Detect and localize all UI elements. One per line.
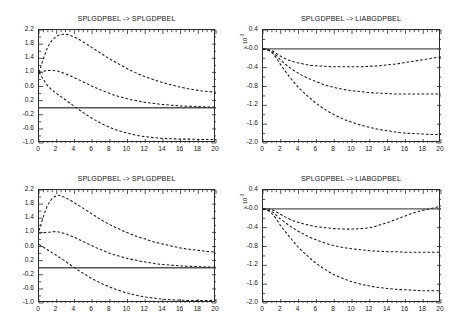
xtick-label-top-left-0: 0 bbox=[28, 145, 48, 152]
ytick-label-top-left-8: 2.2 bbox=[8, 25, 34, 32]
xtick-label-bottom-left-1: 2 bbox=[46, 305, 66, 312]
xtick-label-bottom-left-4: 8 bbox=[99, 305, 119, 312]
xtick-label-top-right-1: 2 bbox=[270, 145, 290, 152]
series-line-1 bbox=[39, 232, 216, 267]
ytick-label-bottom-right-0: -2.0 bbox=[232, 298, 258, 305]
xtick-label-top-left-6: 12 bbox=[134, 145, 154, 152]
ytick-label-bottom-right-3: -0.8 bbox=[232, 242, 258, 249]
xtick-label-top-left-9: 18 bbox=[187, 145, 207, 152]
ytick-label-bottom-right-2: -1.2 bbox=[232, 260, 258, 267]
xtick-label-top-left-4: 8 bbox=[99, 145, 119, 152]
series-line-0 bbox=[263, 49, 441, 67]
plot-svg-top-right bbox=[263, 30, 441, 143]
xtick-label-top-left-7: 14 bbox=[152, 145, 172, 152]
plot-area-top-right bbox=[262, 29, 440, 142]
xtick-label-bottom-right-9: 18 bbox=[412, 305, 432, 312]
exponent-label-top-right: x 10-3 bbox=[240, 34, 248, 49]
series-line-2 bbox=[263, 49, 441, 135]
ytick-label-bottom-right-6: 0.4 bbox=[232, 185, 258, 192]
ytick-label-bottom-left-4: 0.6 bbox=[8, 242, 34, 249]
xtick-label-top-right-2: 4 bbox=[288, 145, 308, 152]
panel-title-bottom-left: SPLGDPBEL -> SPLGDPBEL bbox=[2, 174, 251, 183]
ytick-label-top-left-4: 0.6 bbox=[8, 82, 34, 89]
xtick-label-bottom-right-10: 20 bbox=[430, 305, 450, 312]
panel-bottom-left: SPLGDPBEL -> SPLGDPBEL-1.0-0.6-0.20.20.6… bbox=[0, 0, 464, 321]
ytick-label-bottom-left-5: 1.0 bbox=[8, 227, 34, 234]
plot-area-bottom-right bbox=[262, 189, 440, 302]
ytick-label-bottom-left-8: 2.2 bbox=[8, 185, 34, 192]
ytick-label-bottom-right-1: -1.6 bbox=[232, 279, 258, 286]
panel-title-top-right: SPLGDPBEL -> LIABGDPBEL bbox=[226, 14, 464, 23]
xtick-label-bottom-left-5: 10 bbox=[117, 305, 137, 312]
xtick-label-top-left-5: 10 bbox=[117, 145, 137, 152]
xtick-label-bottom-left-10: 20 bbox=[205, 305, 225, 312]
xtick-label-bottom-left-7: 14 bbox=[152, 305, 172, 312]
ytick-label-top-right-3: -0.8 bbox=[232, 82, 258, 89]
impulse-response-figure: SPLGDPBEL -> SPLGDPBEL-1.0-0.6-0.20.20.6… bbox=[0, 0, 464, 321]
xtick-label-top-left-8: 16 bbox=[170, 145, 190, 152]
xtick-label-bottom-left-9: 18 bbox=[187, 305, 207, 312]
plot-svg-bottom-left bbox=[39, 190, 216, 303]
xtick-label-bottom-right-6: 12 bbox=[359, 305, 379, 312]
series-line-2 bbox=[39, 244, 216, 300]
panel-bottom-right: SPLGDPBEL -> LIABGDPBEL-2.0-1.6-1.2-0.8-… bbox=[0, 0, 464, 321]
xtick-label-top-right-7: 14 bbox=[377, 145, 397, 152]
series-line-2 bbox=[263, 209, 441, 291]
xtick-label-bottom-left-2: 4 bbox=[63, 305, 83, 312]
plot-svg-bottom-right bbox=[263, 190, 441, 303]
xtick-label-bottom-right-8: 16 bbox=[394, 305, 414, 312]
ytick-label-bottom-left-2: -0.2 bbox=[8, 270, 34, 277]
ytick-label-bottom-left-3: 0.2 bbox=[8, 256, 34, 263]
series-line-0 bbox=[39, 195, 216, 252]
ytick-label-top-right-6: 0.4 bbox=[232, 25, 258, 32]
xtick-label-top-right-3: 6 bbox=[305, 145, 325, 152]
xtick-label-top-right-0: 0 bbox=[252, 145, 272, 152]
xtick-label-bottom-left-0: 0 bbox=[28, 305, 48, 312]
exponent-label-bottom-right: x 10-3 bbox=[240, 194, 248, 209]
ytick-label-bottom-right-5: -0.0 bbox=[232, 204, 258, 211]
xtick-label-top-right-4: 8 bbox=[323, 145, 343, 152]
panel-top-right: SPLGDPBEL -> LIABGDPBEL-2.0-1.6-1.2-0.8-… bbox=[0, 0, 464, 321]
series-line-0 bbox=[39, 34, 216, 92]
panel-title-top-left: SPLGDPBEL -> SPLGDPBEL bbox=[2, 14, 251, 23]
xtick-label-top-right-5: 10 bbox=[341, 145, 361, 152]
xtick-label-bottom-right-5: 10 bbox=[341, 305, 361, 312]
series-line-1 bbox=[39, 70, 216, 107]
exponent-power: -3 bbox=[240, 34, 245, 38]
xtick-label-bottom-left-8: 16 bbox=[170, 305, 190, 312]
panel-top-left: SPLGDPBEL -> SPLGDPBEL-1.0-0.6-0.20.20.6… bbox=[0, 0, 464, 321]
plot-area-top-left bbox=[38, 29, 215, 142]
ytick-label-bottom-left-7: 1.8 bbox=[8, 199, 34, 206]
exponent-power: -3 bbox=[240, 194, 245, 198]
xtick-label-top-left-3: 6 bbox=[81, 145, 101, 152]
panel-title-bottom-right: SPLGDPBEL -> LIABGDPBEL bbox=[226, 174, 464, 183]
xtick-label-top-right-6: 12 bbox=[359, 145, 379, 152]
ytick-label-top-right-4: -0.4 bbox=[232, 63, 258, 70]
plot-area-bottom-left bbox=[38, 189, 215, 302]
xtick-label-top-right-9: 18 bbox=[412, 145, 432, 152]
xtick-label-top-right-8: 16 bbox=[394, 145, 414, 152]
xtick-label-bottom-left-3: 6 bbox=[81, 305, 101, 312]
xtick-label-bottom-right-1: 2 bbox=[270, 305, 290, 312]
ytick-label-bottom-left-0: -1.0 bbox=[8, 298, 34, 305]
exponent-base: x 10 bbox=[242, 38, 248, 49]
exponent-base: x 10 bbox=[242, 198, 248, 209]
ytick-label-top-left-0: -1.0 bbox=[8, 138, 34, 145]
series-line-0 bbox=[263, 206, 441, 229]
xtick-label-top-left-10: 20 bbox=[205, 145, 225, 152]
ytick-label-top-left-5: 1.0 bbox=[8, 67, 34, 74]
xtick-label-top-left-1: 2 bbox=[46, 145, 66, 152]
xtick-label-top-left-2: 4 bbox=[63, 145, 83, 152]
ytick-label-top-right-1: -1.6 bbox=[232, 119, 258, 126]
xtick-label-bottom-right-3: 6 bbox=[305, 305, 325, 312]
series-line-1 bbox=[263, 209, 441, 252]
xtick-label-bottom-right-7: 14 bbox=[377, 305, 397, 312]
ytick-label-top-right-2: -1.2 bbox=[232, 100, 258, 107]
xtick-label-bottom-right-4: 8 bbox=[323, 305, 343, 312]
series-line-1 bbox=[263, 49, 441, 94]
ytick-label-bottom-left-1: -0.6 bbox=[8, 284, 34, 291]
ytick-label-top-right-0: -2.0 bbox=[232, 138, 258, 145]
ytick-label-top-right-5: -0.0 bbox=[232, 44, 258, 51]
series-line-2 bbox=[39, 72, 216, 139]
xtick-label-bottom-right-0: 0 bbox=[252, 305, 272, 312]
